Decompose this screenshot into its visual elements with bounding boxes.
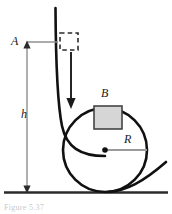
motion-direction-arrow	[66, 52, 75, 109]
radius-indicator	[102, 147, 147, 153]
label-point-a: A	[11, 35, 18, 47]
block-b-rectangle	[94, 106, 122, 129]
label-radius-r: R	[124, 133, 131, 145]
drop-track-curve	[56, 8, 106, 156]
loop-center-dot	[102, 147, 108, 153]
dashed-release-box	[60, 33, 78, 50]
label-height-h: h	[21, 108, 27, 120]
figure-caption: Figure 5.37	[4, 203, 44, 212]
label-block-b: B	[101, 87, 108, 99]
physics-loop-track-figure: A h B R Figure 5.37	[0, 0, 172, 214]
